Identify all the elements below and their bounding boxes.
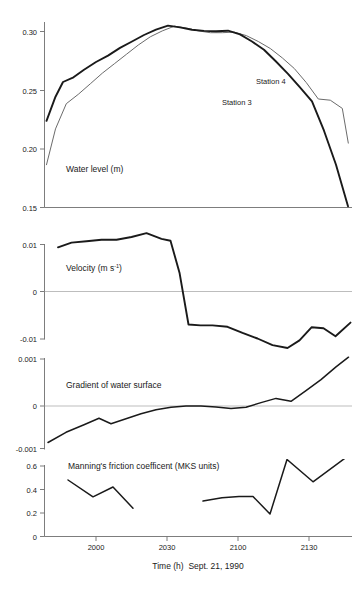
trace-station-4 [47,26,349,165]
trace-velocity [58,233,351,348]
gradient-ytick-label-2: 0.001 [18,355,37,364]
velocity-panel-label: Velocity (m s-1) [66,263,122,273]
velocity-ytick-label-2: 0.01 [22,241,37,250]
velocity-label-text: Velocity (m s [66,263,114,273]
manning-ytick-label-2: 0.4 [27,486,37,495]
trace-station-3 [47,26,349,207]
panel-gradient: 0.001 0 -0.001 Gradient of water surface [0,350,353,455]
xtick-label-2130: 2130 [301,543,318,552]
gradient-panel-label: Gradient of water surface [66,380,162,390]
xtick-label-2000: 2000 [88,543,105,552]
water-level-ytick-label-3: 0.30 [22,28,37,37]
trace-manning-segment-2 [203,459,348,514]
station-3-label: Station 3 [222,98,252,107]
xtick-label-2030: 2030 [159,543,176,552]
panel-velocity: 0.01 0 -0.01 Velocity (m s-1) [0,230,353,360]
velocity-ytick-label-0: -0.01 [20,335,37,344]
x-axis-title-main: Time (h) [152,561,183,571]
multi-panel-time-series-figure: 0.30 0.25 0.20 0.15 Water level (m) Stat… [0,0,353,589]
x-axis-title: Time (h) Sept. 21, 1990 [152,561,244,571]
panel-water-level: 0.30 0.25 0.20 0.15 Water level (m) Stat… [0,0,353,230]
xtick-label-2100: 2100 [230,543,247,552]
manning-ytick-label-0: 0 [33,533,37,542]
gradient-ytick-label-1: 0 [33,402,37,411]
water-level-ytick-label-1: 0.20 [22,145,37,154]
trace-gradient [48,357,349,442]
manning-ytick-label-1: 0.2 [27,509,37,518]
station-4-label: Station 4 [256,77,286,86]
water-level-ytick-label-2: 0.25 [22,87,37,96]
manning-ytick-label-3: 0.6 [27,462,37,471]
gradient-ytick-label-0: -0.001 [16,445,37,454]
trace-manning-segment-1 [68,480,133,508]
water-level-panel-label: Water level (m) [66,164,123,174]
manning-panel-label: Manning's friction coefficent (MKS units… [68,461,219,471]
panel-manning: 0.6 0.4 0.2 0 2000 2030 2100 2130 Mannin… [0,459,353,589]
velocity-label-paren: ) [119,263,122,273]
x-axis-title-date: Sept. 21, 1990 [188,561,244,571]
water-level-ytick-label-0: 0.15 [22,204,37,213]
velocity-ytick-label-1: 0 [33,288,37,297]
